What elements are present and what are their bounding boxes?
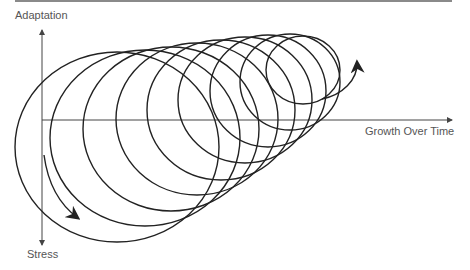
spiral-loop: [83, 47, 259, 211]
spiral-loop: [15, 52, 219, 242]
spiral-loop: [116, 43, 278, 195]
spiral-loops: [15, 34, 340, 242]
spiral-loop: [210, 35, 326, 147]
spiral-loop: [178, 37, 312, 163]
spiral-diagram: [0, 0, 470, 270]
spiral-start-arrow: [44, 155, 78, 218]
